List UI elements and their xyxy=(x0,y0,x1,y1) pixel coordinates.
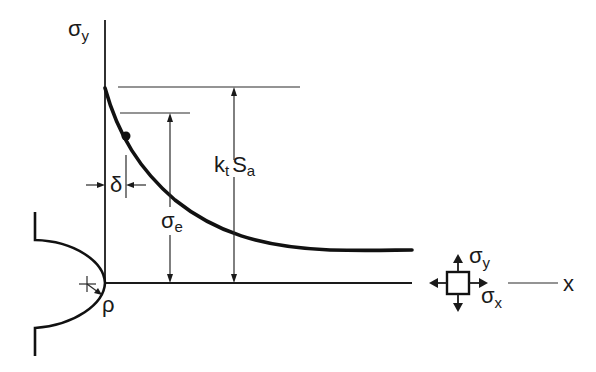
sigma-e-label: σe xyxy=(161,208,183,235)
kt-sa-label: ktSa xyxy=(214,152,256,179)
sigma-e-arrow-down-icon xyxy=(167,274,173,283)
sigma-y-down-arrow-icon xyxy=(453,303,463,312)
delta-arrow-right-icon xyxy=(97,182,105,188)
delta-label: δ xyxy=(110,172,122,197)
notch-stress-diagram: ktSa σe δ σy ρ σy σx x xyxy=(0,0,596,372)
sigma-y-up-arrow-icon xyxy=(453,254,463,263)
sigma-x-left-arrow-icon xyxy=(429,278,438,288)
x-axis-label: x xyxy=(563,271,574,296)
notch-radius-arrow-icon xyxy=(94,288,102,295)
delta-arrow-left-icon xyxy=(126,182,134,188)
element-sigma-y-label: σy xyxy=(469,243,491,271)
kt-sa-arrow-up-icon xyxy=(231,87,237,96)
element-sigma-x-label: σx xyxy=(481,283,503,311)
rho-label: ρ xyxy=(102,292,115,317)
sigma-y-axis-label: σy xyxy=(68,16,90,44)
stress-distribution-curve xyxy=(105,88,412,250)
critical-point-dot xyxy=(122,132,131,141)
element-square xyxy=(447,272,469,294)
kt-sa-arrow-down-icon xyxy=(231,274,237,283)
sigma-e-arrow-up-icon xyxy=(167,113,173,122)
